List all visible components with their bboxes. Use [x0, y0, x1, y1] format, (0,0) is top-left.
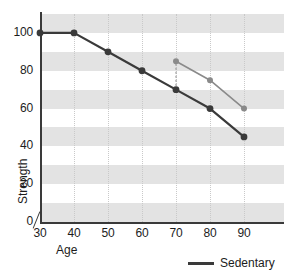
data-point-marker	[207, 77, 213, 83]
data-point-marker	[37, 30, 44, 37]
legend-label: Sedentary	[220, 256, 275, 270]
data-point-marker	[173, 58, 179, 64]
data-series-layer	[0, 0, 296, 274]
data-point-marker	[105, 48, 112, 55]
data-point-marker	[139, 67, 146, 74]
series-line	[176, 61, 244, 108]
data-point-marker	[173, 86, 180, 93]
data-point-marker	[71, 30, 78, 37]
legend-line-swatch	[188, 262, 214, 265]
data-point-marker	[241, 134, 248, 141]
data-point-marker	[207, 105, 214, 112]
chart-figure: 100806040200 30405060708090 Strength Age…	[0, 0, 296, 274]
chart-legend: Sedentary	[188, 256, 275, 270]
data-point-marker	[241, 106, 247, 112]
series-line	[40, 33, 244, 137]
